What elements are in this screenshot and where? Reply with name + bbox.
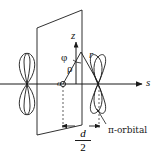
phi-angle-arc	[73, 60, 81, 63]
plane-parallelogram	[37, 10, 82, 135]
fraction-denominator: 2	[75, 142, 91, 154]
pi-orbital-diagram: z φ ρ r o s π-orbital d 2	[0, 0, 158, 158]
rho-label: ρ	[67, 63, 73, 74]
coordinate-plane	[37, 10, 82, 135]
pi-orbital-label: π-orbital	[108, 126, 147, 135]
distance-fraction-label: d 2	[75, 128, 91, 153]
origin-label: o	[57, 79, 62, 88]
z-axis-label: z	[71, 30, 75, 41]
s-axis-label: s	[146, 77, 150, 88]
fraction-numerator: d	[75, 128, 91, 140]
r-label: r	[89, 49, 93, 60]
